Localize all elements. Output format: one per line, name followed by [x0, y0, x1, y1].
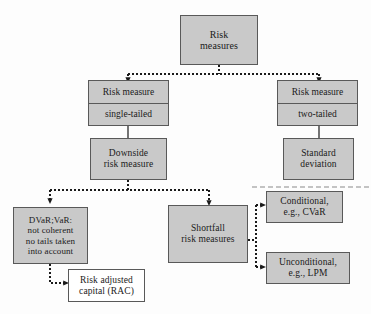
node-unconditional-line2: e.g., LPM: [289, 268, 328, 279]
node-rac-line1: Risk adjusted: [80, 275, 133, 286]
node-shortfall-line2: risk measures: [181, 234, 234, 245]
node-two-tailed-body: two-tailed: [278, 104, 357, 126]
node-standard-deviation-line1: Standard: [301, 148, 336, 159]
node-standard-deviation-line2: deviation: [300, 159, 336, 170]
node-unconditional-line1: Unconditional,: [279, 257, 337, 268]
node-shortfall-risk-measures[interactable]: Shortfall risk measures: [168, 205, 248, 263]
node-standard-deviation[interactable]: Standard deviation: [283, 138, 354, 180]
node-downside-line1: Downside: [109, 148, 148, 159]
node-conditional-line1: Conditional,: [280, 196, 328, 207]
node-downside-line2: risk measure: [104, 159, 153, 170]
node-downside-risk-measure[interactable]: Downside risk measure: [90, 138, 167, 180]
node-risk-measures-line2: measures: [200, 40, 238, 51]
node-risk-measures-line1: Risk: [210, 29, 229, 40]
node-single-tailed-header: Risk measure: [89, 81, 168, 104]
node-dvar-var-line1: DVaR;VaR:: [29, 215, 72, 225]
node-risk-measure-two-tailed[interactable]: Risk measure two-tailed: [277, 80, 358, 126]
node-single-tailed-body: single-tailed: [89, 104, 168, 126]
node-conditional-line2: e.g., CVaR: [283, 207, 325, 218]
connector-dvar-to-rac: [50, 264, 66, 283]
node-dvar-var-line2: not coherent: [28, 225, 74, 235]
node-dvar-var[interactable]: DVaR;VaR: not coherent no tails taken in…: [13, 207, 88, 264]
node-rac-line2: capital (RAC): [79, 286, 134, 297]
node-dvar-var-line3: no tails taken: [26, 236, 75, 246]
node-risk-measure-single-tailed[interactable]: Risk measure single-tailed: [88, 80, 169, 126]
node-dvar-var-line4: into account: [28, 246, 73, 256]
node-two-tailed-header: Risk measure: [278, 81, 357, 104]
node-risk-adjusted-capital[interactable]: Risk adjusted capital (RAC): [68, 269, 145, 302]
flowchart-canvas: Risk measures Risk measure single-tailed…: [0, 0, 371, 314]
node-shortfall-line1: Shortfall: [191, 223, 225, 234]
node-unconditional-lpm[interactable]: Unconditional, e.g., LPM: [266, 252, 350, 284]
node-conditional-cvar[interactable]: Conditional, e.g., CVaR: [266, 191, 343, 223]
node-risk-measures[interactable]: Risk measures: [180, 15, 258, 65]
